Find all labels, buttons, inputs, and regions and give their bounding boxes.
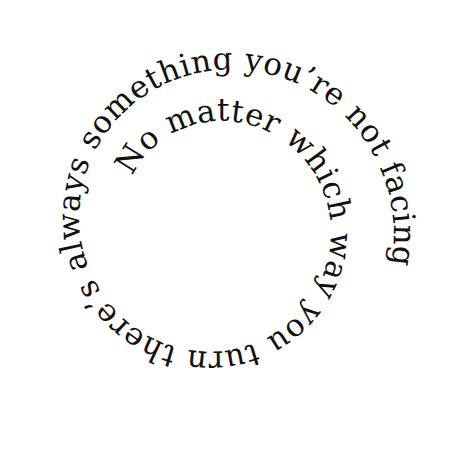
spiral-quote-text: No matter which way you turn there’s alw…	[50, 40, 423, 381]
spiral-quote-canvas: No matter which way you turn there’s alw…	[0, 0, 464, 455]
spiral-svg: No matter which way you turn there’s alw…	[0, 0, 464, 455]
spiral-quote: No matter which way you turn there’s alw…	[50, 40, 423, 381]
